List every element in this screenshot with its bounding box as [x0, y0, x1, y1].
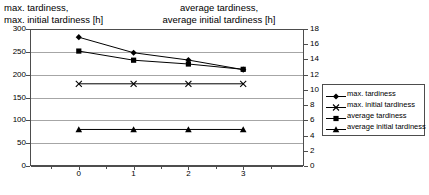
right-tick-mark [304, 90, 308, 91]
x-minor-tick-mark [106, 166, 107, 169]
legend-item: max. tardiness [325, 88, 421, 99]
right-tick-label: 18 [310, 25, 319, 33]
right-tick-label: 12 [310, 71, 319, 79]
right-tick-mark [304, 151, 308, 152]
right-tick-mark [304, 120, 308, 121]
right-tick-label: 14 [310, 55, 319, 63]
chart-legend: max. tardinessmax. initial tardinessaver… [322, 84, 425, 136]
right-tick-mark [304, 136, 308, 137]
right-tick-label: 6 [310, 116, 314, 124]
x-tick-label: 0 [64, 170, 94, 178]
series-average-tardiness [76, 48, 246, 71]
square-marker [325, 110, 347, 121]
left-tick-label: 0 [0, 162, 26, 170]
gridline [31, 166, 303, 167]
right-tick-label: 4 [310, 132, 314, 140]
x-tick-label: 1 [119, 170, 149, 178]
tardiness-line-chart: max. tardiness, max. initial tardiness [… [0, 0, 429, 195]
left-axis-title: max. tardiness, max. initial tardiness [… [4, 2, 103, 25]
legend-item: average tardiness [325, 110, 421, 121]
x-tick-mark [79, 166, 80, 170]
right-tick-mark [304, 75, 308, 76]
left-tick-label: 300 [0, 25, 26, 33]
right-tick-mark [304, 105, 308, 106]
right-tick-mark [304, 59, 308, 60]
x-minor-tick-mark [51, 166, 52, 169]
x-tick-label: 2 [173, 170, 203, 178]
right-tick-label: 10 [310, 86, 319, 94]
right-tick-label: 0 [310, 162, 314, 170]
triangle-marker [325, 121, 347, 132]
x-minor-tick-mark [216, 166, 217, 169]
right-axis-title: average tardiness, average initial tardi… [129, 2, 309, 25]
x-tick-label: 3 [228, 170, 258, 178]
x-minor-tick-mark [161, 166, 162, 169]
x-tick-mark [243, 166, 244, 170]
left-tick-label: 50 [0, 139, 26, 147]
diamond-marker [325, 88, 347, 99]
series-layer [30, 29, 304, 166]
left-tick-label: 100 [0, 116, 26, 124]
x-tick-mark [134, 166, 135, 170]
legend-item-label: average tardiness [347, 111, 407, 120]
right-tick-label: 8 [310, 101, 314, 109]
series-average-initial-tardiness [76, 126, 247, 132]
left-tick-mark [26, 166, 30, 167]
legend-item-label: average initial tardiness [347, 122, 426, 131]
cross-marker [325, 99, 347, 110]
right-tick-label: 16 [310, 40, 319, 48]
legend-item-label: max. tardiness [347, 89, 396, 98]
x-tick-mark [188, 166, 189, 170]
right-tick-label: 2 [310, 147, 314, 155]
right-tick-mark [304, 29, 308, 30]
legend-item: max. initial tardiness [325, 99, 421, 110]
legend-item: average initial tardiness [325, 121, 421, 132]
series-max-initial-tardiness [76, 81, 246, 87]
legend-item-label: max. initial tardiness [347, 100, 415, 109]
left-tick-label: 250 [0, 48, 26, 56]
right-tick-mark [304, 166, 308, 167]
x-minor-tick-mark [271, 166, 272, 169]
right-tick-mark [304, 44, 308, 45]
left-tick-label: 200 [0, 71, 26, 79]
left-tick-label: 150 [0, 94, 26, 102]
